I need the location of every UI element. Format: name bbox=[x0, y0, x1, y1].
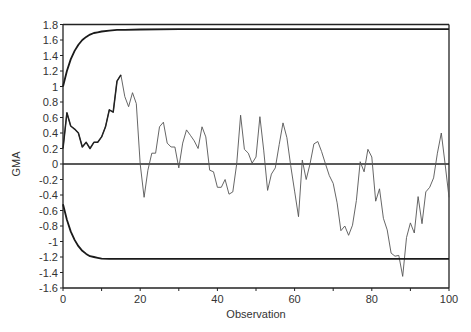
y-tick-label: -1 bbox=[48, 236, 58, 248]
y-tick-label: 0.6 bbox=[43, 112, 58, 124]
y-tick-label: 0 bbox=[52, 158, 58, 170]
plot-lines bbox=[63, 29, 449, 276]
y-tick-label: 0.2 bbox=[43, 143, 58, 155]
y-tick-label: -0.4 bbox=[39, 189, 58, 201]
x-tick-label: 20 bbox=[134, 293, 146, 305]
x-tick-label: 0 bbox=[60, 293, 66, 305]
y-tick-label: -0.2 bbox=[39, 174, 58, 186]
y-tick-label: -1.2 bbox=[39, 251, 58, 263]
y-tick-label: 1 bbox=[52, 81, 58, 93]
x-tick-label: 60 bbox=[288, 293, 300, 305]
y-tick-label: -0.6 bbox=[39, 205, 58, 217]
x-tick-label: 80 bbox=[366, 293, 378, 305]
x-axis-label: Observation bbox=[226, 308, 285, 320]
y-axis: 1.81.61.41.210.80.60.40.20-0.2-0.4-0.6-0… bbox=[39, 19, 63, 295]
gma-line bbox=[63, 75, 449, 277]
y-tick-label: 1.8 bbox=[43, 19, 58, 31]
y-tick-label: 0.8 bbox=[43, 96, 58, 108]
y-tick-label: 1.6 bbox=[43, 34, 58, 46]
x-tick-label: 100 bbox=[440, 293, 458, 305]
y-tick-label: -1.6 bbox=[39, 282, 58, 294]
control-chart: 1.81.61.41.210.80.60.40.20-0.2-0.4-0.6-0… bbox=[0, 0, 471, 332]
y-tick-label: 1.4 bbox=[43, 50, 58, 62]
y-tick-label: 1.2 bbox=[43, 65, 58, 77]
x-tick-label: 40 bbox=[211, 293, 223, 305]
y-axis-label: GMA bbox=[10, 151, 22, 177]
x-axis: 020406080100 bbox=[60, 288, 458, 305]
upper-control-limit-line bbox=[63, 29, 449, 86]
y-tick-label: 0.4 bbox=[43, 127, 58, 139]
y-tick-label: -1.4 bbox=[39, 267, 58, 279]
gma-early-segment bbox=[63, 75, 121, 149]
y-tick-label: -0.8 bbox=[39, 220, 58, 232]
